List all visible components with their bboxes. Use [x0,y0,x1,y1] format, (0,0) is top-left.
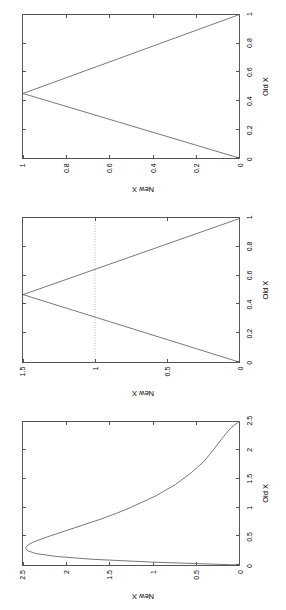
panel-e-xtick-1 [236,332,240,333]
panel-d: (d) [0,0,286,203]
panel-e: (e) [0,203,286,406]
panel-d-yticklabel-5: 1 [19,163,26,183]
panel-e-xaxis-title: Old X [261,217,270,362]
panel-f-yticklabel-0: 0 [237,570,244,590]
panel-f-yaxis-title: New X [132,592,154,601]
panel-f-xtick-top-4 [22,449,26,450]
panel-d-ytick-right-4 [196,14,197,18]
panel-f-xtick-top-1 [22,535,26,536]
panel-e-ytick-0 [239,359,240,363]
panel-e-xtick-top-3 [22,275,26,276]
panel-d-yticklabel-3: 0.6 [106,163,113,183]
panel-f-xtick-top-3 [22,478,26,479]
panel-e-xticklabel-4: 0.8 [246,242,253,252]
panel-f-xticklabel-5: 2.5 [246,416,253,426]
panel-f-yticklabel-5: 2.5 [19,570,26,590]
panel-f-xtick-2 [236,507,240,508]
panel-f-xaxis-title: Old X [261,421,270,566]
panel-e-xticklabel-5: 1 [246,215,253,219]
panel-e-ytick-right-2 [95,217,96,221]
panel-d-xtick-top-2 [22,100,26,101]
panel-f-ytick-5 [23,562,24,566]
panel-f: (f) [0,407,286,610]
panel-f-xticklabel-4: 2 [246,448,253,452]
panel-d-xticklabel-0: 0 [246,157,253,161]
panel-f-ytick-3 [109,562,110,566]
panel-f-ytick-right-1 [66,421,67,425]
panel-d-xticklabel-4: 0.8 [246,38,253,48]
panel-f-xticklabel-1: 0.5 [246,532,253,542]
panel-f-yticklabel-3: 1.5 [106,570,113,590]
panel-d-ytick-right-3 [153,14,154,18]
panel-d-yaxis-title: New X [132,186,154,195]
panel-e-ytick-1 [167,359,168,363]
panel-e-xticklabel-3: 0.6 [246,271,253,281]
panel-f-curve [26,422,239,565]
panel-d-plot-area [22,14,240,159]
panel-f-plot-area [22,421,240,566]
panel-d-xtick-4 [236,43,240,44]
panel-f-xtick-4 [236,449,240,450]
panel-d-xtick-5 [236,14,240,15]
panel-d-curve [23,15,239,158]
panel-d-yticklabel-2: 0.4 [149,163,156,183]
panel-d-ytick-right-1 [66,14,67,18]
panel-d-xticklabel-2: 0.4 [246,96,253,106]
panel-row: (f) [0,0,286,610]
panel-f-xticklabel-2: 1 [246,506,253,510]
panel-f-xticklabel-0: 0 [246,564,253,568]
panel-e-xtick-top-4 [22,246,26,247]
panel-d-xticklabel-1: 0.2 [246,125,253,135]
panel-d-xaxis-title: Old X [261,14,270,159]
panel-f-yticklabel-1: 0.5 [193,570,200,590]
panel-d-ytick-right-2 [109,14,110,18]
panel-e-yticklabel-3: 1.5 [19,367,26,387]
panel-d-xtick-1 [236,129,240,130]
panel-d-xtick-top-3 [22,71,26,72]
panel-e-xtick-top-2 [22,303,26,304]
panel-d-xtick-2 [236,100,240,101]
panel-e-ytick-3 [23,359,24,363]
panel-e-ytick-2 [95,359,96,363]
panel-d-xtick-top-1 [22,129,26,130]
panel-f-xtick-top-2 [22,507,26,508]
panel-d-ytick-5 [23,155,24,159]
panel-d-ytick-3 [109,155,110,159]
panel-f-ytick-right-3 [153,421,154,425]
panel-f-ytick-0 [239,562,240,566]
panel-d-ytick-0 [239,155,240,159]
panel-d-xticklabel-3: 0.6 [246,67,253,77]
figure-canvas: (f) [0,0,286,610]
panel-e-ytick-right-1 [167,217,168,221]
panel-f-ytick-right-4 [196,421,197,425]
panel-e-xticklabel-1: 0.2 [246,329,253,339]
panel-e-yticklabel-2: 1 [91,367,98,387]
panel-e-yaxis-title: New X [132,389,154,398]
panel-d-ytick-2 [153,155,154,159]
panel-d-xticklabel-5: 1 [246,12,253,16]
panel-e-yticklabel-0: 0 [237,367,244,387]
panel-d-ytick-1 [196,155,197,159]
panel-d-xtick-top-4 [22,43,26,44]
panel-e-xtick-top-1 [22,332,26,333]
panel-d-yticklabel-1: 0.2 [193,163,200,183]
panel-f-xticklabel-3: 1.5 [246,474,253,484]
panel-e-plot-area [22,217,240,362]
panel-d-curve-svg [23,15,239,158]
panel-e-xtick-3 [236,275,240,276]
panel-f-curve-svg [23,422,239,565]
panel-e-xticklabel-2: 0.4 [246,300,253,310]
panel-e-curve [23,218,239,361]
panel-f-ytick-2 [153,562,154,566]
panel-d-xtick-3 [236,71,240,72]
panel-e-xtick-5 [236,217,240,218]
panel-f-xtick-1 [236,535,240,536]
panel-d-yticklabel-0: 0 [237,163,244,183]
panel-d-ytick-4 [66,155,67,159]
panel-f-ytick-1 [196,562,197,566]
panel-f-ytick-right-2 [109,421,110,425]
panel-e-xticklabel-0: 0 [246,361,253,365]
panel-f-xtick-3 [236,478,240,479]
panel-e-yticklabel-1: 0.5 [164,367,171,387]
panel-f-yticklabel-2: 1 [149,570,156,590]
